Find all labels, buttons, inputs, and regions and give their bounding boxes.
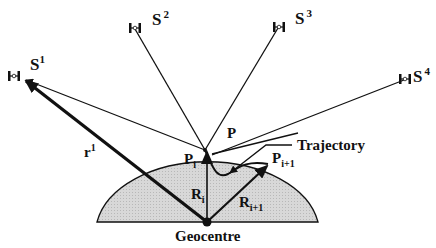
line-to-s1 xyxy=(26,80,205,150)
satellite-icon xyxy=(8,71,20,81)
satellite-icon xyxy=(399,74,411,84)
label-geocentre: Geocentre xyxy=(175,228,241,244)
label-r1: r1 xyxy=(84,142,96,160)
label-s1: S1 xyxy=(30,53,45,74)
satellite-icon xyxy=(129,23,141,33)
geocentre-point xyxy=(203,218,212,227)
line-to-s3 xyxy=(205,28,278,150)
label-p: P xyxy=(227,125,236,141)
label-trajectory: Trajectory xyxy=(297,137,366,153)
point-p xyxy=(203,148,207,152)
p-pointer xyxy=(212,133,298,154)
label-s2: S2 xyxy=(152,8,169,29)
positioning-diagram: S1 S2 S3 S4 P Trajectory r1 Pi Pi+1 Ri R… xyxy=(0,0,436,248)
label-s4: S4 xyxy=(413,65,430,86)
satellite-icon xyxy=(273,22,285,32)
label-s3: S3 xyxy=(295,7,312,28)
line-to-s2 xyxy=(135,29,205,150)
label-pi1: Pi+1 xyxy=(272,150,295,169)
